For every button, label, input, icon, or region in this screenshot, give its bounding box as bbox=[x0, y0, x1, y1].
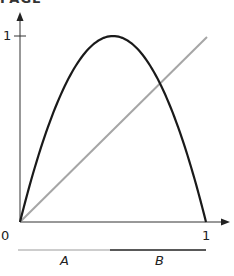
segment-a-label: A bbox=[60, 254, 69, 267]
y-tick-one-label: 1 bbox=[3, 29, 11, 42]
x-tick-one-label: 1 bbox=[202, 229, 210, 242]
y-axis-arrow-icon bbox=[17, 12, 24, 21]
segment-b-label: B bbox=[155, 254, 164, 267]
diagram-canvas bbox=[0, 0, 234, 276]
x-axis-arrow-icon bbox=[221, 219, 230, 226]
x-tick-zero-label: 0 bbox=[1, 229, 9, 242]
